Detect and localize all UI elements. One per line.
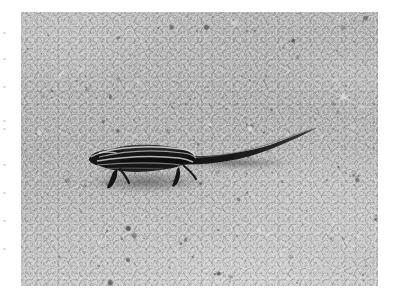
- margin-mark: [3, 32, 6, 34]
- margin-mark: [3, 248, 6, 250]
- margin-mark: [3, 120, 6, 122]
- margin-mark: [3, 128, 6, 130]
- margin-mark: [3, 86, 6, 88]
- left-margin-artifacts: [2, 24, 10, 254]
- skink-lizard: [21, 12, 378, 286]
- photograph: [21, 12, 378, 286]
- margin-mark: [3, 192, 6, 194]
- margin-mark: [3, 164, 6, 166]
- body-shadow: [84, 171, 208, 193]
- screenshot-canvas: [0, 0, 398, 297]
- margin-mark: [3, 58, 6, 60]
- margin-mark: [3, 220, 6, 222]
